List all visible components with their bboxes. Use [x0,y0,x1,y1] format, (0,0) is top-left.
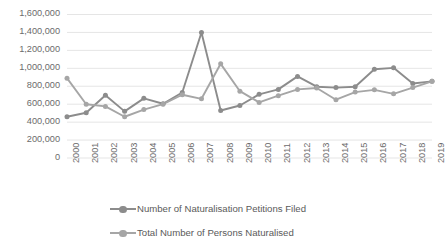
data-point [141,96,146,101]
x-axis-tick-label: 2003 [129,143,139,163]
gridlines [67,15,432,159]
data-point [295,74,300,79]
data-point [237,89,242,94]
data-point [314,86,319,91]
data-point [218,61,223,66]
x-axis-tick-label: 2001 [90,143,100,163]
x-axis-tick-label: 2015 [359,143,369,163]
data-point [180,92,185,97]
series-markers [65,30,435,119]
data-point [391,91,396,96]
data-point [237,103,242,108]
legend-label-petitions-filed: Number of Naturalisation Petitions Filed [137,204,306,214]
data-point [84,102,89,107]
x-axis-tick-label: 2017 [398,143,408,163]
x-axis-tick-label: 2005 [167,143,177,163]
data-point [257,100,262,105]
legend-label-persons-naturalised: Total Number of Persons Naturalised [137,228,294,238]
x-axis-tick-label: 2000 [71,143,81,163]
x-axis-tick-label: 2002 [109,143,119,163]
data-point [372,87,377,92]
x-axis-tick-label: 2014 [340,143,350,163]
x-axis-tick-label: 2010 [263,143,273,163]
data-point [161,102,166,107]
data-point [84,110,89,115]
data-point [410,85,415,90]
data-point [276,93,281,98]
data-point [103,93,108,98]
data-point [122,109,127,114]
data-point [218,108,223,113]
x-axis-tick-label: 2018 [417,143,427,163]
data-point [122,114,127,119]
data-point [333,97,338,102]
x-axis-tick-label: 2004 [148,143,158,163]
x-axis-tick-label: 2008 [225,143,235,163]
legend-key-persons-naturalised [110,228,136,238]
data-point [141,107,146,112]
x-axis-tick-label: 2009 [244,143,254,163]
legend-item-petitions-filed[interactable]: Number of Naturalisation Petitions Filed [110,202,306,216]
data-point [391,65,396,70]
x-axis-tick-label: 2016 [378,143,388,163]
x-axis-tick-label: 2007 [205,143,215,163]
x-axis-tick-label: 2011 [282,143,292,163]
data-point [353,84,358,89]
legend-item-persons-naturalised[interactable]: Total Number of Persons Naturalised [110,226,294,240]
x-axis-tick-label: 2019 [436,143,446,163]
data-point [65,76,70,81]
data-point [199,30,204,35]
data-point [276,87,281,92]
data-point [430,79,435,84]
data-point [103,104,108,109]
data-point [65,114,70,119]
data-point [199,96,204,101]
x-axis-tick-label: 2006 [186,143,196,163]
data-point [353,90,358,95]
data-point [333,85,338,90]
data-point [372,67,377,72]
legend-key-petitions-filed [110,204,136,214]
x-axis-tick-label: 2012 [302,143,312,163]
data-point [257,92,262,97]
x-axis-tick-label: 2013 [321,143,331,163]
data-point [295,87,300,92]
